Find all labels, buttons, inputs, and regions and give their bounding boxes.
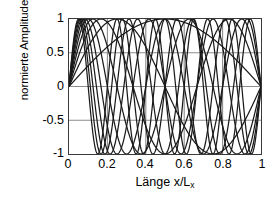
- x-axis-label-main: Länge x/L: [135, 175, 190, 189]
- x-tick-label-0-8: 0.8: [203, 157, 243, 171]
- y-axis-tick-labels: 1 0.5 0 -0.5 -1: [31, 0, 64, 208]
- x-tick-label-0-2: 0.2: [87, 157, 127, 171]
- chart-canvas: [69, 19, 261, 154]
- x-tick-label-0: 0: [48, 157, 88, 171]
- x-tick-label-1: 1: [242, 157, 277, 171]
- x-tick-label-0-4: 0.4: [125, 157, 165, 171]
- x-axis-tick-labels: 0 0.2 0.4 0.6 0.8 1: [0, 157, 277, 173]
- figure: normierte Amplitude 1 0.5 0 -0.5 -1 0 0.…: [0, 0, 277, 208]
- x-axis-label: Länge x/Lx: [68, 175, 262, 190]
- y-tick-label-1: 1: [34, 12, 64, 24]
- y-tick-label-0: 0: [34, 80, 64, 92]
- x-tick-label-0-6: 0.6: [164, 157, 204, 171]
- y-tick-label-0-5: 0.5: [34, 46, 64, 58]
- y-tick-label-neg0-5: -0.5: [34, 114, 64, 126]
- plot-area: [68, 18, 262, 155]
- x-axis-label-subscript: x: [190, 180, 194, 190]
